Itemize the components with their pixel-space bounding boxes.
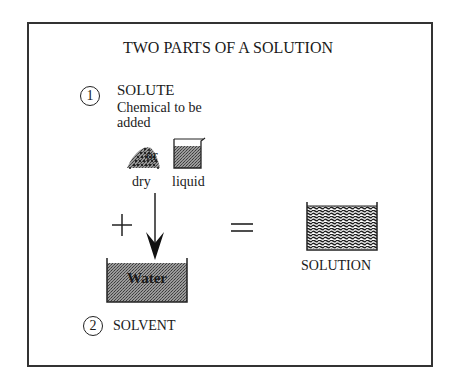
equals-sign-icon <box>231 224 253 231</box>
liquid-beaker-icon <box>174 138 205 168</box>
diagram-artwork <box>0 0 456 383</box>
water-label: Water <box>106 271 188 286</box>
solvent-label: SOLVENT <box>113 319 176 333</box>
solution-beaker-icon <box>307 202 377 250</box>
plus-sign-icon <box>112 214 132 236</box>
step-1-number-badge: 1 <box>80 86 100 106</box>
solution-label: SOLUTION <box>301 259 371 273</box>
down-arrow-icon <box>146 193 164 260</box>
solute-description: Chemical to be added <box>117 100 207 130</box>
dry-label: dry <box>132 175 151 189</box>
step-2-number-badge: 2 <box>83 316 103 336</box>
solute-label: SOLUTE <box>117 83 175 98</box>
or-connector-label: or <box>146 149 158 163</box>
diagram-title: TWO PARTS OF A SOLUTION <box>0 40 456 56</box>
liquid-label: liquid <box>172 175 205 189</box>
